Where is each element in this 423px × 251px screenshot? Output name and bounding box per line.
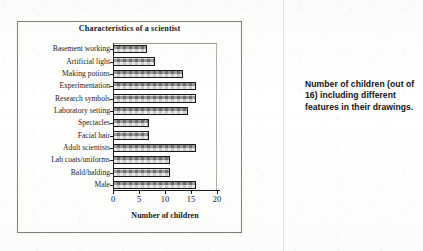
bar-row <box>113 107 217 116</box>
y-axis-label: Laboratory setting <box>54 106 110 115</box>
bar-row <box>113 181 217 190</box>
bar <box>113 156 170 165</box>
x-axis-tick-label: 15 <box>187 195 195 204</box>
chart-title: Characteristics of a scientist <box>17 24 242 33</box>
x-axis-tick <box>139 190 140 194</box>
bar-row <box>113 82 217 91</box>
y-axis-label: Experimentation <box>59 81 110 90</box>
bar <box>113 144 196 153</box>
x-axis-tick <box>191 190 192 194</box>
bar <box>113 57 155 66</box>
y-axis-label: Artificial light <box>66 57 110 66</box>
bar-row <box>113 156 217 165</box>
y-axis-label: Bald/balding <box>71 168 110 177</box>
bar <box>113 45 147 54</box>
bar <box>113 181 196 190</box>
x-axis-tick <box>217 190 218 194</box>
x-axis-tick <box>165 190 166 194</box>
y-axis-label: Spectacles <box>78 118 110 127</box>
y-axis-labels: Basement workingArtificial lightMaking p… <box>0 43 110 191</box>
x-axis-tick-label: 10 <box>161 195 169 204</box>
bar <box>113 70 183 79</box>
bar-row <box>113 70 217 79</box>
plot-area <box>113 43 217 191</box>
bar-row <box>113 144 217 153</box>
bar-row <box>113 119 217 128</box>
figure-caption: Number of children (out of 16) including… <box>305 79 417 113</box>
bar <box>113 107 188 116</box>
bar-row <box>113 168 217 177</box>
y-axis-label: Adult scientists <box>63 143 110 152</box>
y-axis-label: Male <box>94 180 110 189</box>
y-axis-label: Basement working <box>53 44 110 53</box>
x-axis-tick-label: 5 <box>137 195 141 204</box>
x-axis-tick <box>113 190 114 194</box>
page-gutter-rule <box>283 0 284 251</box>
bar <box>113 119 149 128</box>
bar-row <box>113 45 217 54</box>
bar <box>113 82 196 91</box>
bar-row <box>113 94 217 103</box>
y-axis-label: Research symbols <box>55 94 110 103</box>
y-axis-label: Making potions <box>62 69 110 78</box>
y-axis-label: Facial hair <box>78 131 110 140</box>
x-axis-tick-label: 0 <box>111 195 115 204</box>
bar <box>113 94 196 103</box>
bar <box>113 168 170 177</box>
x-axis-title: Number of children <box>113 211 217 220</box>
bar <box>113 131 149 140</box>
bar-row <box>113 57 217 66</box>
x-axis-tick-label: 20 <box>213 195 221 204</box>
y-axis-label: Lab coats/uniforms <box>51 155 110 164</box>
bar-row <box>113 131 217 140</box>
